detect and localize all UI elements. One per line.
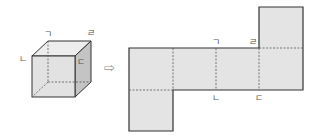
cube-net-diagram: ㄱ ㄴ ㄷ ㄹ ⇨ ㄱ ㄹ ㄴ ㄷ	[0, 0, 318, 137]
cube-label-nieun: ㄴ	[19, 54, 27, 64]
net-label-digeut: ㄷ	[255, 93, 263, 103]
cube-label-giyeok: ㄱ	[44, 29, 52, 39]
cube-front-face	[32, 56, 75, 97]
cube: ㄱ ㄴ ㄷ ㄹ	[19, 28, 95, 97]
net-label-nieun: ㄴ	[212, 93, 220, 103]
cube-label-rieul: ㄹ	[87, 28, 95, 38]
net-label-giyeok: ㄱ	[212, 37, 220, 47]
cube-label-digeut: ㄷ	[77, 57, 85, 67]
arrow-icon: ⇨	[104, 60, 115, 75]
net-label-rieul: ㄹ	[249, 37, 257, 47]
cube-net: ㄱ ㄹ ㄴ ㄷ	[129, 7, 303, 131]
